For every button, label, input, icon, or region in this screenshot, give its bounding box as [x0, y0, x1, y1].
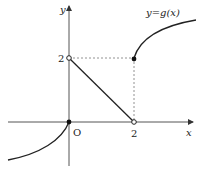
y-axis-label: y	[59, 4, 66, 15]
x-tick-2: 2	[131, 128, 137, 139]
x-axis-label: x	[186, 127, 192, 138]
line-segment	[69, 58, 134, 122]
open-point-2-0	[132, 120, 137, 125]
origin-label: O	[73, 127, 81, 138]
graph-canvas: y x O 2 2 y=g(x)	[0, 0, 199, 172]
curve-left	[8, 122, 69, 160]
open-point-0-2	[67, 56, 72, 61]
curve-right	[134, 20, 196, 58]
closed-point-2-2	[132, 57, 137, 62]
function-label: y=g(x)	[145, 7, 180, 18]
y-tick-2: 2	[58, 53, 64, 64]
function-graph: y x O 2 2 y=g(x)	[0, 0, 199, 172]
closed-point-origin	[67, 120, 72, 125]
